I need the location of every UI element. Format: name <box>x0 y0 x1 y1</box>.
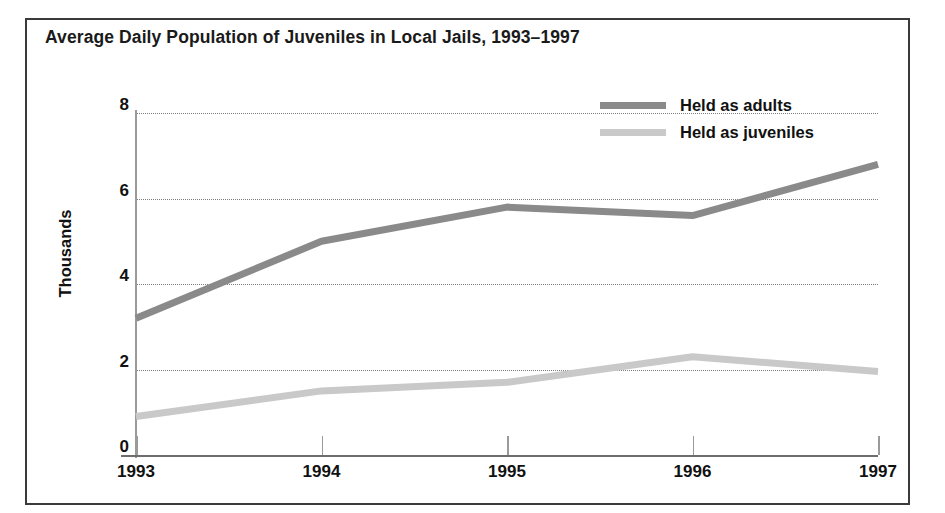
series-line-held-as-adults <box>136 164 878 318</box>
legend-item-1: Held as juveniles <box>600 119 814 146</box>
series-lines <box>0 0 945 513</box>
chart-legend: Held as adultsHeld as juveniles <box>600 92 814 146</box>
legend-swatch-1 <box>600 129 666 136</box>
legend-label-0: Held as adults <box>680 96 792 115</box>
legend-label-1: Held as juveniles <box>680 123 814 142</box>
series-line-held-as-juveniles <box>136 357 878 417</box>
legend-item-0: Held as adults <box>600 92 814 119</box>
figure-root: Average Daily Population of Juveniles in… <box>0 0 945 513</box>
legend-swatch-0 <box>600 102 666 109</box>
